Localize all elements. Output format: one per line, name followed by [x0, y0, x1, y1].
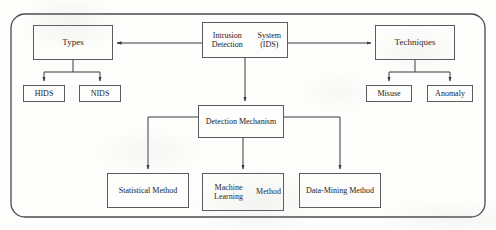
node-label-detection-mechanism: Detection Mechanism — [204, 117, 278, 126]
node-label-root-line2: System (IDS) — [252, 31, 287, 49]
node-statistical-method: Statistical Method — [107, 173, 189, 208]
node-label-data-mining-method: Data-Mining Method — [304, 186, 376, 195]
node-label-statistical-method: Statistical Method — [117, 186, 179, 195]
node-label-misuse: Misuse — [375, 89, 402, 98]
node-nids: NIDS — [79, 85, 121, 102]
node-hids: HIDS — [23, 85, 65, 102]
node-label-anomaly: Anomaly — [433, 89, 467, 98]
node-types: Types — [33, 25, 113, 60]
node-label-machine-learning-line2: Method — [254, 187, 283, 196]
node-label-techniques: Techniques — [393, 37, 438, 47]
node-detection-mechanism: Detection Mechanism — [198, 105, 284, 138]
node-misuse: Misuse — [366, 85, 412, 102]
node-techniques: Techniques — [375, 25, 455, 60]
node-label-types: Types — [60, 37, 85, 47]
node-anomaly: Anomaly — [427, 85, 473, 102]
node-data-mining-method: Data-Mining Method — [299, 173, 381, 208]
diagram-canvas: Intrusion Detection System (IDS) Types T… — [0, 0, 496, 230]
node-intrusion-detection-system: Intrusion Detection System (IDS) — [202, 22, 288, 58]
node-label-root-line1: Intrusion Detection — [203, 31, 252, 49]
node-label-machine-learning-line1: Machine Learning — [203, 183, 254, 201]
node-label-nids: NIDS — [89, 89, 112, 98]
node-label-hids: HIDS — [33, 89, 56, 98]
node-machine-learning-method: Machine Learning Method — [202, 173, 284, 211]
